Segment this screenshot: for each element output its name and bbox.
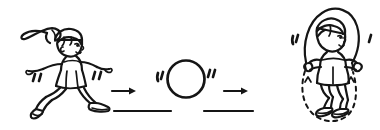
- jumper-legs-part: [321, 85, 348, 109]
- jump-rope-direction-arrows: [305, 77, 354, 82]
- runner-head-part: [55, 29, 82, 57]
- jumper-shoes-part: [316, 108, 348, 117]
- runner-arm-front-part: [80, 62, 112, 72]
- runner-leg-back-part: [36, 88, 66, 111]
- runner-shoe-front-part: [89, 103, 110, 112]
- runner-skirt-part: [56, 70, 86, 88]
- jumper-shorts-part: [317, 66, 349, 85]
- figure-jumping-rope: [292, 9, 371, 121]
- runner-arm-back-part: [26, 64, 62, 74]
- ball-motion-marks-right: [208, 70, 215, 77]
- motion-arrow-right: [224, 87, 248, 94]
- figure-running-girl: [21, 28, 112, 118]
- motion-arrow-left: [112, 87, 136, 94]
- illustration-svg: [0, 0, 380, 130]
- runner-torso-part: [61, 56, 82, 70]
- ball-circle: [168, 61, 205, 98]
- jumper-torso-part: [320, 52, 346, 66]
- jumper-face-part: [338, 36, 346, 47]
- ball-motion-marks-left: [157, 72, 163, 81]
- runner-shoe-back-part: [31, 109, 43, 119]
- illustration-canvas: Children exercising line drawing: [0, 0, 380, 130]
- figure-ball-scene: [112, 61, 253, 112]
- runner-leg-front-part: [78, 88, 96, 103]
